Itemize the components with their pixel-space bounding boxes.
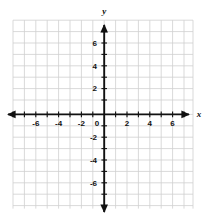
x-tick-label-6: 6 — [170, 119, 175, 128]
y-tick-label-4: 4 — [93, 62, 98, 71]
y-tick-label-2: 2 — [93, 84, 98, 93]
x-tick-label-4: 4 — [148, 119, 153, 128]
y-tick-label-minus6: -6 — [90, 179, 98, 188]
x-tick-label-minus2: -2 — [78, 119, 86, 128]
x-tick-label-minus4: -4 — [55, 119, 63, 128]
y-tick-label-6: 6 — [93, 39, 98, 48]
x-axis-label: x — [196, 109, 202, 119]
y-tick-label-minus4: -4 — [90, 156, 98, 165]
coordinate-plane: -6 -4 -2 2 4 6 0 6 4 2 -2 -4 -6 x y — [0, 0, 210, 217]
y-axis-label: y — [101, 6, 107, 16]
x-tick-label-2: 2 — [125, 119, 130, 128]
origin-label: 0 — [95, 119, 100, 128]
y-tick-label-minus2: -2 — [90, 133, 98, 142]
x-tick-label-minus6: -6 — [32, 119, 40, 128]
coordinate-grid-svg: -6 -4 -2 2 4 6 0 6 4 2 -2 -4 -6 x y — [0, 0, 210, 217]
